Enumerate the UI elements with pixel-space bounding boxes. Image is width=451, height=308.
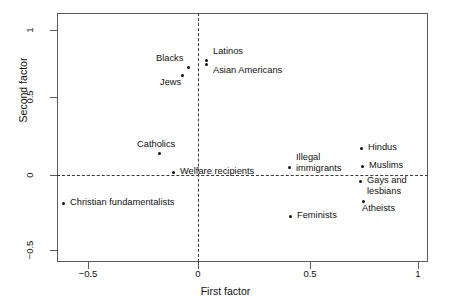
x-ticklabel-0: 0: [178, 268, 218, 279]
data-point-catholics: [158, 152, 161, 155]
data-point-hindus: [360, 147, 363, 150]
y-ticklabel-0: 0: [24, 159, 36, 191]
point-label-muslims: Muslims: [369, 160, 403, 171]
scatter-plot-figure: 1 0.5 0 −0.5 −0.5 0 0.5 1 First factor S…: [0, 0, 451, 308]
y-axis-title-wrap: Second factor: [0, 83, 83, 97]
point-label-asian-americans: Asian Americans: [213, 65, 282, 76]
y-tick-1: [50, 30, 57, 31]
x-axis-title: First factor: [0, 285, 451, 297]
point-label-christian-fundamentalists: Christian fundamentalists: [70, 197, 174, 208]
point-label-gays-and-lesbians: Gays and lesbians: [367, 175, 421, 196]
y-tick-0: [50, 175, 57, 176]
data-point-gays-and-lesbians: [359, 180, 362, 183]
point-label-jews: Jews: [160, 77, 181, 88]
y-axis-title: Second factor: [16, 30, 30, 150]
x-ticklabel-0p5: 0.5: [290, 268, 330, 279]
data-point-asian-americans: [205, 63, 208, 66]
point-label-atheists: Atheists: [362, 203, 395, 214]
data-point-welfare-recipients: [172, 171, 175, 174]
data-point-christian-fundamentalists: [62, 202, 65, 205]
data-point-muslims: [361, 165, 364, 168]
point-label-catholics: Catholics: [137, 139, 175, 150]
reference-line-vertical-zero: [198, 13, 199, 262]
x-ticklabel-neg0p5: −0.5: [68, 268, 108, 279]
x-ticklabel-1: 1: [398, 268, 438, 279]
y-tick-0p5: [50, 97, 57, 98]
y-tick-neg0p5: [50, 250, 57, 251]
point-label-blacks: Blacks: [156, 53, 183, 64]
data-point-jews: [181, 74, 184, 77]
point-label-feminists: Feminists: [297, 210, 337, 221]
data-point-blacks: [187, 66, 190, 69]
point-label-latinos: Latinos: [213, 46, 243, 57]
point-label-welfare-recipients: Welfare recipients: [180, 166, 254, 177]
y-ticklabel-neg0p5: −0.5: [24, 234, 36, 266]
point-label-illegal-immigrants: Illegal immigrants: [296, 152, 350, 173]
point-label-hindus: Hindus: [368, 142, 397, 153]
data-point-illegal-immigrants: [288, 166, 291, 169]
data-point-latinos: [205, 59, 208, 62]
data-point-feminists: [289, 215, 292, 218]
